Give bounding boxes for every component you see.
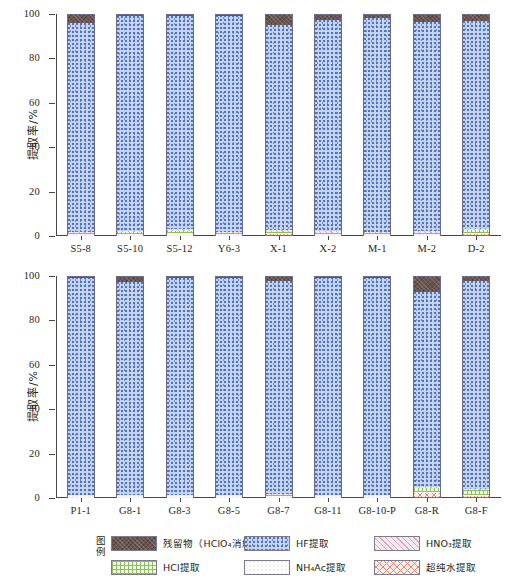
- stacked-bar[interactable]: [314, 276, 342, 498]
- x-axis-tick-label: M-1: [368, 243, 387, 254]
- x-axis-tick-label: P1-1: [70, 505, 91, 516]
- y-axis-tick: 80: [49, 320, 55, 321]
- x-axis-tick: [130, 236, 131, 240]
- bar-group[interactable]: G8-R: [413, 276, 441, 498]
- bar-group[interactable]: S5-10: [116, 14, 144, 236]
- bar-segment: [414, 487, 440, 488]
- x-axis-tick: [130, 498, 131, 502]
- bar-segment: [117, 277, 143, 282]
- bar-segment: [315, 495, 341, 496]
- x-axis-tick: [427, 236, 428, 240]
- bar-segment: [364, 277, 390, 494]
- stacked-bar[interactable]: [314, 14, 342, 236]
- x-axis-tick: [81, 498, 82, 502]
- x-axis-tick-label: G8-3: [168, 505, 190, 516]
- bar-segment: [167, 233, 193, 234]
- legend-item[interactable]: HF提取: [244, 531, 374, 555]
- bar-segment: [117, 232, 143, 233]
- bar-group[interactable]: G8-3: [166, 276, 194, 498]
- stacked-bar[interactable]: [413, 14, 441, 236]
- stacked-bar[interactable]: [363, 14, 391, 236]
- bar-group[interactable]: G8-5: [215, 276, 243, 498]
- x-axis-tick: [476, 236, 477, 240]
- bar-segment: [266, 494, 292, 495]
- y-axis-line-top: [56, 14, 57, 236]
- bar-group[interactable]: X-1: [265, 14, 293, 236]
- bar-group[interactable]: G8-7: [265, 276, 293, 498]
- legend-item[interactable]: 残留物（HClO₄消解）: [111, 531, 244, 555]
- bar-group[interactable]: Y6-3: [215, 14, 243, 236]
- x-axis-tick-label: S5-8: [70, 243, 91, 254]
- bar-group[interactable]: G8-10-P: [363, 276, 391, 498]
- stacked-bar[interactable]: [116, 276, 144, 498]
- stacked-bar[interactable]: [215, 14, 243, 236]
- bar-segment: [463, 229, 489, 231]
- stacked-bar[interactable]: [116, 14, 144, 236]
- x-axis-tick-label: G8-10-P: [359, 505, 397, 516]
- bar-segment: [68, 15, 94, 23]
- legend-item[interactable]: HNO₃提取: [374, 531, 494, 555]
- stacked-bar[interactable]: [166, 276, 194, 498]
- y-axis-tick-label: 60: [29, 98, 40, 109]
- x-axis-tick: [180, 236, 181, 240]
- bar-segment: [315, 495, 341, 496]
- legend-item[interactable]: 超纯水提取: [374, 555, 494, 579]
- stacked-bar[interactable]: [265, 276, 293, 498]
- plot-area-top: 020406080100S5-8S5-10S5-12Y6-3X-1X-2M-1M…: [56, 14, 501, 236]
- bar-segment: [364, 234, 390, 235]
- bar-segment: [167, 16, 193, 229]
- bar-segment: [117, 495, 143, 496]
- bar-group[interactable]: M-1: [363, 14, 391, 236]
- bar-segment: [414, 492, 440, 493]
- y-axis-tick: 20: [49, 454, 55, 455]
- bar-group[interactable]: P1-1: [67, 276, 95, 498]
- bar-segment: [68, 277, 94, 494]
- stacked-bar[interactable]: [67, 14, 95, 236]
- y-axis-line-bottom: [56, 276, 57, 498]
- legend-items: 残留物（HClO₄消解）HF提取HNO₃提取HCl提取NH₄Ac提取超纯水提取: [111, 531, 494, 579]
- bar-segment: [167, 277, 193, 278]
- stacked-bar[interactable]: [413, 276, 441, 498]
- chart-panel-top: 提取率/% 020406080100S5-8S5-10S5-12Y6-3X-1X…: [0, 0, 511, 268]
- stacked-bar[interactable]: [215, 276, 243, 498]
- stacked-bar[interactable]: [363, 276, 391, 498]
- y-axis-tick: 40: [49, 409, 55, 410]
- y-axis-tick-label: 40: [29, 404, 40, 415]
- bar-segment: [266, 281, 292, 494]
- legend-tag-label: 图例: [94, 535, 107, 557]
- bar-segment: [68, 23, 94, 233]
- bar-segment: [315, 234, 341, 235]
- bar-segment: [167, 15, 193, 16]
- bar-group[interactable]: D-2: [462, 14, 490, 236]
- legend-item[interactable]: NH₄Ac提取: [244, 555, 374, 579]
- bar-group[interactable]: G8-F: [462, 276, 490, 498]
- x-axis-tick: [229, 498, 230, 502]
- x-axis-tick-label: G8-R: [415, 505, 439, 516]
- stacked-bar[interactable]: [67, 276, 95, 498]
- y-axis-tick: 100: [49, 276, 55, 277]
- legend-label: HCl提取: [163, 560, 200, 574]
- stacked-bar[interactable]: [166, 14, 194, 236]
- bar-segment: [364, 495, 390, 496]
- stacked-bar[interactable]: [462, 14, 490, 236]
- x-axis-tick: [328, 498, 329, 502]
- y-axis-tick: 40: [49, 147, 55, 148]
- legend-item[interactable]: HCl提取: [111, 555, 244, 579]
- stacked-bar[interactable]: [265, 14, 293, 236]
- bar-group[interactable]: G8-1: [116, 276, 144, 498]
- bar-group[interactable]: S5-12: [166, 14, 194, 236]
- bar-segment: [216, 234, 242, 235]
- bar-group[interactable]: X-2: [314, 14, 342, 236]
- bar-segment: [216, 496, 242, 497]
- x-axis-tick-label: Y6-3: [218, 243, 240, 254]
- bar-segment: [68, 496, 94, 497]
- stacked-bar[interactable]: [462, 276, 490, 498]
- bar-segment: [315, 15, 341, 20]
- y-axis-tick-label: 80: [29, 53, 40, 64]
- bar-group[interactable]: M-2: [413, 14, 441, 236]
- bar-group[interactable]: G8-11: [314, 276, 342, 498]
- x-axis-tick-label: S5-12: [167, 243, 193, 254]
- bar-group[interactable]: S5-8: [67, 14, 95, 236]
- bar-segment: [414, 493, 440, 497]
- bar-segment: [68, 233, 94, 234]
